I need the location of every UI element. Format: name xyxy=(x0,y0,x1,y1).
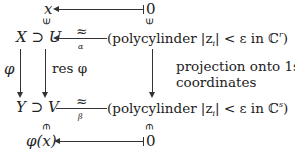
homeomorphic-label: ≈ xyxy=(76,25,87,39)
arrow-head-down-icon xyxy=(149,92,155,98)
res-phi-label: res φ xyxy=(52,62,87,76)
origin-top: 0 xyxy=(146,2,156,17)
bottom-map-arrow xyxy=(58,141,143,142)
element-of-icon: ∈ xyxy=(41,122,52,130)
polycylinder-s: (polycylinder |zi| < ε in ℂs) xyxy=(107,101,288,118)
point-x: x xyxy=(44,2,52,17)
element-of-icon: ∈ xyxy=(144,122,155,130)
phi-label: φ xyxy=(4,62,15,77)
beta-label: β xyxy=(78,113,83,121)
element-of-icon: ∈ xyxy=(144,17,155,25)
projection-label-line2: coordinates xyxy=(176,76,256,90)
res-phi-arrow xyxy=(45,49,46,93)
maps-to-bar xyxy=(143,137,144,146)
projection-label-line1: projection onto 1st s xyxy=(176,60,295,74)
top-map-arrow xyxy=(57,9,143,10)
maps-to-bar xyxy=(143,5,144,14)
projection-arrow xyxy=(152,49,153,93)
element-of-icon: ∈ xyxy=(41,17,52,25)
target-Y-contains-V: Y ⊃ V xyxy=(16,100,59,115)
phi-arrow xyxy=(20,49,21,93)
homeomorphic-label: ≈ xyxy=(76,95,87,109)
alpha-label: α xyxy=(78,43,83,51)
polycylinder-r: (polycylinder |zi| < ε in ℂr) xyxy=(107,31,288,48)
origin-bottom: 0 xyxy=(146,134,156,149)
image-phi-x: φ(x) xyxy=(26,134,57,149)
